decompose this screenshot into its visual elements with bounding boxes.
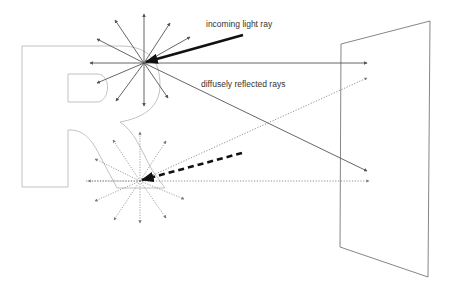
scattered-ray bbox=[95, 159, 140, 181]
scattered-ray bbox=[144, 37, 190, 63]
reflected-rays-label: diffusely reflected rays bbox=[201, 79, 285, 89]
incoming-dashed-ray bbox=[142, 153, 242, 180]
incoming-light-ray bbox=[146, 35, 243, 62]
reflected-ray-dotted-diagonal bbox=[140, 78, 367, 181]
scattered-ray bbox=[97, 39, 144, 63]
incoming-ray-label: incoming light ray bbox=[206, 19, 273, 29]
lower-ray-star bbox=[88, 132, 184, 223]
upper-ray-star bbox=[90, 14, 190, 106]
letter-r-bowl bbox=[68, 74, 108, 102]
scattered-ray bbox=[113, 140, 140, 181]
screen-panel bbox=[340, 21, 430, 277]
diffuse-reflection-diagram: incoming light ray diffusely reflected r… bbox=[0, 0, 450, 292]
scattered-ray bbox=[114, 181, 140, 220]
scattered-ray bbox=[144, 63, 168, 98]
scattered-ray bbox=[115, 20, 144, 63]
scattered-ray bbox=[95, 181, 140, 201]
